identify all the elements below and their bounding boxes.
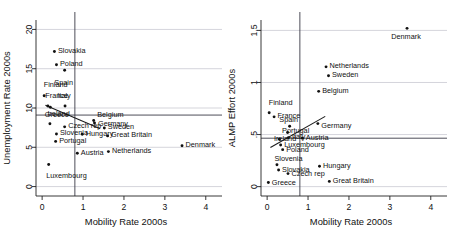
data-point xyxy=(47,163,50,166)
x-tick-label: 2 xyxy=(122,202,127,212)
x-tick-label: 1 xyxy=(306,202,311,212)
data-point xyxy=(406,27,409,30)
data-point xyxy=(76,152,79,155)
y-tick-label: 0 xyxy=(24,184,34,189)
data-point-label: Slovenia xyxy=(274,154,303,163)
data-point-label: Finland xyxy=(269,98,293,107)
data-point-label: Finland xyxy=(44,80,68,89)
data-point xyxy=(48,122,51,125)
plot-area-right: 012340.511.5Mobility Rate 2000sALMP Effo… xyxy=(225,0,450,242)
data-point xyxy=(63,69,66,72)
data-point xyxy=(267,181,270,184)
y-axis-title: ALMP Effort 2000s xyxy=(226,69,237,148)
y-tick-label: 1.5 xyxy=(249,24,259,36)
data-point-label: Slovakia xyxy=(58,46,87,55)
data-point-label: Hungary xyxy=(86,129,114,138)
x-tick-label: 0 xyxy=(40,202,45,212)
data-point-label: Czech rep xyxy=(292,169,325,178)
x-tick-label: 0 xyxy=(265,202,270,212)
data-point xyxy=(107,150,110,153)
y-tick-label: .5 xyxy=(249,131,259,138)
data-point-label: Belgium xyxy=(322,86,348,95)
data-point xyxy=(55,132,58,135)
data-point xyxy=(328,180,331,183)
data-point xyxy=(54,140,57,143)
data-point-label: Hungary xyxy=(323,161,351,170)
data-point-label: Austria xyxy=(81,148,105,157)
data-point xyxy=(318,165,321,168)
data-point-label: Poland xyxy=(60,59,83,68)
data-point-label: Germany xyxy=(321,121,351,130)
data-point-label: Portugal xyxy=(59,136,87,145)
data-point-label: Spain xyxy=(279,115,298,124)
data-point-label: Denmark xyxy=(186,140,216,149)
data-point-label: Great Britain xyxy=(111,130,152,139)
y-tick-label: 5 xyxy=(24,145,34,150)
data-point xyxy=(53,50,56,53)
y-axis-title: Unemployment Rate 2000s xyxy=(1,51,12,165)
data-point xyxy=(49,106,52,109)
x-tick-label: 2 xyxy=(347,202,352,212)
data-point-label: Belgium xyxy=(97,110,123,119)
data-point xyxy=(287,172,290,175)
data-point xyxy=(316,122,319,125)
panel-unemployment-vs-mobility: 0123405101520Mobility Rate 2000sUnemploy… xyxy=(0,0,225,242)
data-point xyxy=(279,144,282,147)
data-point-label: Italy xyxy=(57,91,71,100)
data-point-label: Greece xyxy=(272,178,296,187)
x-tick-label: 1 xyxy=(81,202,86,212)
data-point-label: Great Britain xyxy=(333,176,374,185)
data-point xyxy=(281,148,284,151)
data-point xyxy=(268,111,271,114)
data-point xyxy=(181,144,184,147)
data-point-label: Poland xyxy=(286,145,309,154)
data-point-label: Denmark xyxy=(391,32,421,41)
data-point xyxy=(276,163,279,166)
y-tick-label: 1 xyxy=(249,80,259,85)
data-point-label: Luxembourg xyxy=(46,171,87,180)
y-tick-label: 0 xyxy=(249,184,259,189)
data-point-label: Netherlands xyxy=(330,61,370,70)
data-point xyxy=(325,65,328,68)
x-tick-label: 3 xyxy=(387,202,392,212)
data-point-label: Netherlands xyxy=(112,146,152,155)
x-tick-label: 4 xyxy=(203,202,208,212)
plot-area-left: 0123405101520Mobility Rate 2000sUnemploy… xyxy=(0,0,225,242)
data-point xyxy=(273,115,276,118)
data-point xyxy=(317,90,320,93)
data-point xyxy=(277,169,280,172)
x-tick-label: 4 xyxy=(428,202,433,212)
y-tick-label: 10 xyxy=(24,103,34,113)
y-tick-label: 15 xyxy=(24,64,34,74)
data-point-label: Sweden xyxy=(332,70,358,79)
x-axis-title: Mobility Rate 2000s xyxy=(310,216,393,227)
data-point xyxy=(327,74,330,77)
panel-almp-vs-mobility: 012340.511.5Mobility Rate 2000sALMP Effo… xyxy=(225,0,450,242)
scatter-figure: 0123405101520Mobility Rate 2000sUnemploy… xyxy=(0,0,450,242)
data-point xyxy=(64,105,67,108)
x-axis-title: Mobility Rate 2000s xyxy=(85,216,168,227)
data-point-label: Ireland xyxy=(47,109,69,118)
y-tick-label: 20 xyxy=(24,24,34,34)
data-point xyxy=(55,63,58,66)
data-point xyxy=(106,134,109,137)
x-tick-label: 3 xyxy=(162,202,167,212)
